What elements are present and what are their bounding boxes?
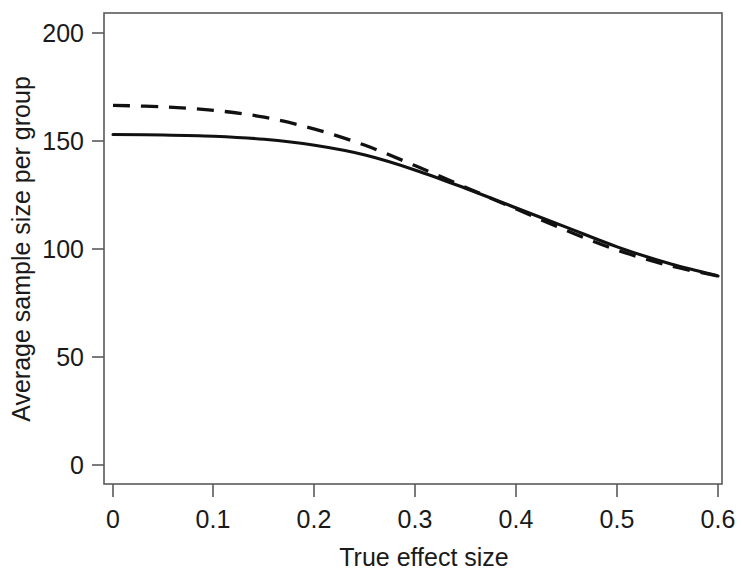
y-tick-label-50: 50 (56, 343, 84, 371)
x-axis-tick-labels: 0 0.1 0.2 0.3 0.4 0.5 0.6 (106, 505, 735, 533)
y-axis-tick-labels: 200 150 100 50 0 (42, 19, 84, 479)
y-axis-title: Average sample size per group (7, 76, 35, 422)
y-tick-label-150: 150 (42, 127, 84, 155)
y-tick-label-0: 0 (70, 451, 84, 479)
x-axis-ticks (113, 484, 718, 497)
x-tick-label-0-4: 0.4 (499, 505, 534, 533)
x-tick-label-0-6: 0.6 (701, 505, 736, 533)
chart-figure: 200 150 100 50 0 0 0.1 0.2 0.3 0.4 0.5 0… (0, 0, 743, 575)
y-tick-label-200: 200 (42, 19, 84, 47)
x-tick-label-0-3: 0.3 (398, 505, 433, 533)
x-tick-label-0-2: 0.2 (297, 505, 332, 533)
x-tick-label-0-1: 0.1 (196, 505, 231, 533)
y-axis-ticks (92, 33, 104, 465)
x-tick-label-0: 0 (106, 505, 120, 533)
plot-frame (104, 13, 722, 484)
y-tick-label-100: 100 (42, 235, 84, 263)
x-axis-title: True effect size (339, 543, 509, 571)
line-chart-svg: 200 150 100 50 0 0 0.1 0.2 0.3 0.4 0.5 0… (0, 0, 743, 575)
x-tick-label-0-5: 0.5 (600, 505, 635, 533)
